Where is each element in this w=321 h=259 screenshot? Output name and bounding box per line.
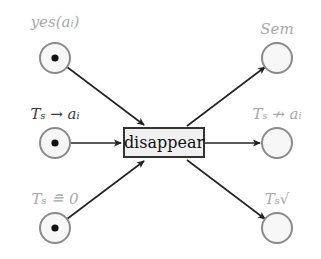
place-ts-to-ai xyxy=(40,128,70,158)
arc-output-3 xyxy=(187,160,265,219)
label-ts-not-to-ai: Tₛ ↛ aᵢ xyxy=(252,107,301,122)
label-ts-to-ai: Tₛ → aᵢ xyxy=(30,107,79,122)
token xyxy=(51,224,58,231)
place-yes-ai xyxy=(40,43,70,73)
label-sem: Sem xyxy=(260,22,293,37)
label-ts-eq-0: Tₛ ≘ 0 xyxy=(31,192,78,207)
token xyxy=(51,139,58,146)
label-ts-tick: Tₛ√ xyxy=(265,192,290,207)
arc-input-3 xyxy=(67,161,144,219)
place-ts-tick xyxy=(262,213,292,243)
label-yes-ai: yes(aᵢ) xyxy=(31,15,80,30)
place-sem xyxy=(262,43,292,73)
token xyxy=(51,54,58,61)
transition-disappear: disappear xyxy=(123,127,205,158)
place-ts-not-to-ai xyxy=(262,128,292,158)
place-ts-eq-0 xyxy=(40,213,70,243)
transition-label: disappear xyxy=(124,133,204,152)
